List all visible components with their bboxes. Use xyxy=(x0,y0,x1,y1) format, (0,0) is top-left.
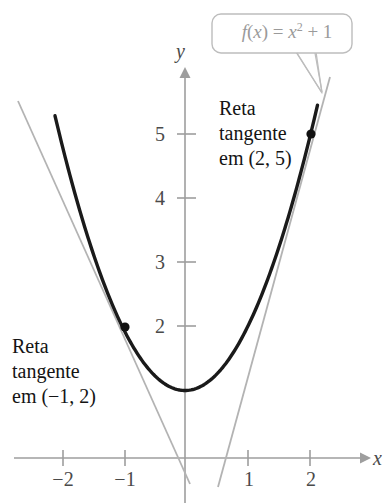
annotation-line: Reta xyxy=(12,334,96,359)
x-tick-label-1: 1 xyxy=(234,468,264,491)
x-tick-label-2: 2 xyxy=(296,468,326,491)
point-marker-neg1-2 xyxy=(120,322,129,331)
y-axis-label: y xyxy=(176,40,185,63)
tangent-line-at-neg1-2 xyxy=(18,101,190,484)
x-tick-label-neg2: −2 xyxy=(48,468,78,491)
plot-canvas xyxy=(0,0,389,503)
y-tick-label-5: 5 xyxy=(150,123,170,146)
x-tick-label-neg1: −1 xyxy=(110,468,140,491)
annotation-line: em (−1, 2) xyxy=(12,384,96,409)
callout-formula-text: f(x) = x2 + 1 xyxy=(242,21,333,42)
callout-formula: f(x) = x2 + 1 xyxy=(224,20,350,43)
y-tick-label-2: 2 xyxy=(150,315,170,338)
annotation-line: Reta xyxy=(219,96,292,121)
y-tick-label-3: 3 xyxy=(150,251,170,274)
tangent-line-figure: f(x) = x2 + 1 Reta tangente em (2, 5) Re… xyxy=(0,0,389,503)
annotation-tangent-at-2-5: Reta tangente em (2, 5) xyxy=(219,96,292,171)
annotation-tangent-at-neg1-2: Reta tangente em (−1, 2) xyxy=(12,334,96,409)
y-tick-label-4: 4 xyxy=(150,187,170,210)
y-axis xyxy=(177,67,196,503)
annotation-line: tangente xyxy=(219,121,292,146)
point-marker-2-5 xyxy=(306,129,315,138)
x-axis-label: x xyxy=(373,447,382,470)
annotation-line: em (2, 5) xyxy=(219,146,292,171)
annotation-line: tangente xyxy=(12,359,96,384)
x-axis xyxy=(14,450,371,466)
